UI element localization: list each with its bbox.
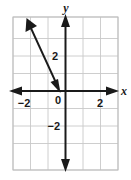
origin-label: 0 (55, 94, 61, 106)
axis-labels: y x (61, 1, 127, 98)
y-axis (61, 14, 70, 172)
arrow-up-icon (61, 14, 70, 27)
y-tick-label-neg2: −2 (47, 120, 60, 132)
arrow-left-icon (9, 87, 22, 96)
coordinate-plane-figure: −2 2 2 −2 0 y x (0, 0, 131, 180)
y-tick-label-2: 2 (52, 50, 58, 62)
x-tick-label-neg2: −2 (18, 97, 31, 109)
x-axis (9, 87, 119, 96)
x-tick-label-2: 2 (97, 97, 103, 109)
y-axis-label: y (61, 1, 69, 15)
arrow-right-icon (106, 87, 119, 96)
graph-canvas: −2 2 2 −2 0 y x (0, 0, 131, 180)
x-axis-label: x (120, 84, 127, 98)
